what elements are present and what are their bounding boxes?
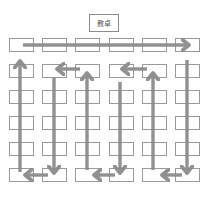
student-desk-r3-c3 bbox=[75, 90, 100, 104]
student-desk-r5-c5 bbox=[142, 142, 167, 156]
student-desk-r2-c4 bbox=[109, 64, 134, 78]
student-desk-r4-c2 bbox=[42, 116, 67, 130]
student-desk-r2-c3 bbox=[75, 64, 100, 78]
student-desk-r1-c4 bbox=[109, 38, 134, 52]
student-desk-r6-c1 bbox=[9, 168, 34, 182]
teacher-desk: 教卓 bbox=[89, 14, 119, 32]
student-desk-r6-c3 bbox=[75, 168, 100, 182]
student-desk-r5-c2 bbox=[42, 142, 67, 156]
student-desk-r4-c6 bbox=[175, 116, 200, 130]
student-desk-r1-c5 bbox=[142, 38, 167, 52]
student-desk-r3-c6 bbox=[175, 90, 200, 104]
student-desk-r6-c5 bbox=[142, 168, 167, 182]
student-desk-r3-c1 bbox=[9, 90, 34, 104]
student-desk-r1-c6 bbox=[175, 38, 200, 52]
student-desk-r3-c2 bbox=[42, 90, 67, 104]
student-desk-r6-c2 bbox=[42, 168, 67, 182]
student-desk-r1-c3 bbox=[75, 38, 100, 52]
student-desk-r2-c2 bbox=[42, 64, 67, 78]
student-desk-r5-c6 bbox=[175, 142, 200, 156]
student-desk-r5-c1 bbox=[9, 142, 34, 156]
student-desk-r2-c1 bbox=[9, 64, 34, 78]
student-desk-r1-c2 bbox=[42, 38, 67, 52]
student-desk-r4-c4 bbox=[109, 116, 134, 130]
student-desk-r5-c3 bbox=[75, 142, 100, 156]
student-desk-r2-c5 bbox=[142, 64, 167, 78]
student-desk-r4-c3 bbox=[75, 116, 100, 130]
student-desk-r6-c4 bbox=[109, 168, 134, 182]
student-desk-r1-c1 bbox=[9, 38, 34, 52]
student-desk-r6-c6 bbox=[175, 168, 200, 182]
student-desk-r4-c5 bbox=[142, 116, 167, 130]
student-desk-r4-c1 bbox=[9, 116, 34, 130]
student-desk-r3-c5 bbox=[142, 90, 167, 104]
student-desk-r5-c4 bbox=[109, 142, 134, 156]
student-desk-r2-c6 bbox=[175, 64, 200, 78]
teacher-desk-label: 教卓 bbox=[97, 18, 111, 28]
student-desk-r3-c4 bbox=[109, 90, 134, 104]
